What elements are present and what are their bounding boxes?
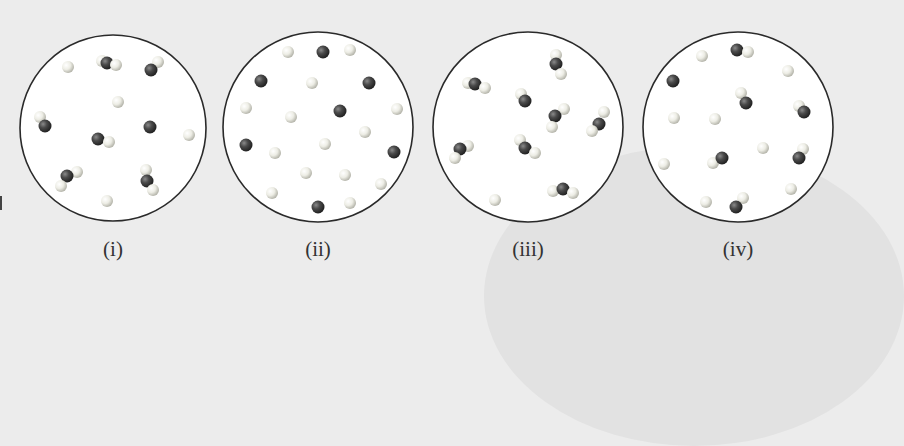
light-atom: [757, 142, 769, 154]
light-atom: [147, 184, 159, 196]
dark-atom: [92, 133, 105, 146]
dark-atom: [312, 201, 325, 214]
light-atom: [183, 129, 195, 141]
dark-atom: [145, 64, 158, 77]
dark-atom: [793, 152, 806, 165]
light-atom: [375, 178, 387, 190]
light-atom: [300, 167, 312, 179]
dark-atom: [363, 77, 376, 90]
light-atom: [344, 197, 356, 209]
light-atom: [339, 169, 351, 181]
dark-atom: [317, 46, 330, 59]
light-atom: [266, 187, 278, 199]
light-atom: [269, 147, 281, 159]
light-atom: [529, 147, 541, 159]
panel-i: [20, 35, 206, 221]
dark-atom: [798, 106, 811, 119]
light-atom: [489, 194, 501, 206]
light-atom: [110, 59, 122, 71]
dark-atom: [667, 75, 680, 88]
light-atom: [140, 164, 152, 176]
light-atom: [359, 126, 371, 138]
light-atom: [658, 158, 670, 170]
container-circle: [223, 32, 413, 222]
light-atom: [306, 77, 318, 89]
light-atom: [586, 125, 598, 137]
light-atom: [598, 106, 610, 118]
light-atom: [282, 46, 294, 58]
container-circle: [643, 32, 833, 222]
light-atom: [103, 136, 115, 148]
light-atom: [700, 196, 712, 208]
panel-iv: [643, 32, 833, 222]
panel-ii: [223, 32, 413, 222]
panel-label-iii: (iii): [468, 237, 588, 262]
light-atom: [782, 65, 794, 77]
light-atom: [696, 50, 708, 62]
dark-atom: [39, 120, 52, 133]
light-atom: [112, 96, 124, 108]
dark-atom: [731, 44, 744, 57]
dark-atom: [519, 95, 532, 108]
dark-atom: [240, 139, 253, 152]
light-atom: [319, 138, 331, 150]
dark-atom: [255, 75, 268, 88]
light-atom: [785, 183, 797, 195]
light-atom: [449, 152, 461, 164]
dark-atom: [740, 97, 753, 110]
light-atom: [546, 121, 558, 133]
dark-atom: [388, 146, 401, 159]
light-atom: [62, 61, 74, 73]
light-atom: [668, 112, 680, 124]
dark-atom: [549, 110, 562, 123]
light-atom: [344, 44, 356, 56]
dark-atom: [730, 201, 743, 214]
panel-label-iv: (iv): [678, 237, 798, 262]
light-atom: [709, 113, 721, 125]
light-atom: [555, 68, 567, 80]
dark-atom: [144, 121, 157, 134]
light-atom: [742, 46, 754, 58]
light-atom: [240, 102, 252, 114]
panel-label-i: (i): [53, 237, 173, 262]
light-atom: [55, 180, 67, 192]
light-atom: [391, 103, 403, 115]
light-atom: [285, 111, 297, 123]
dark-atom: [334, 105, 347, 118]
panel-iii: [433, 32, 623, 222]
light-atom: [567, 187, 579, 199]
light-atom: [479, 82, 491, 94]
dark-atom: [716, 152, 729, 165]
light-atom: [101, 195, 113, 207]
panel-label-ii: (ii): [258, 237, 378, 262]
